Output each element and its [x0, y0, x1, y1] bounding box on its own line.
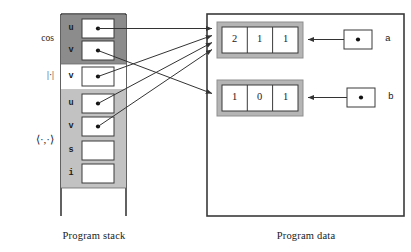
stack-cell-box-inner-i — [82, 164, 114, 183]
pointer-label-b: b — [388, 91, 394, 102]
stack-cell-var-inner-s: s — [62, 145, 80, 155]
array-b-cell-1: 0 — [247, 91, 272, 102]
pointer-box-a — [344, 30, 372, 49]
array-a-cell-0: 2 — [222, 33, 247, 44]
stack-cell-var-inner-i: i — [62, 168, 80, 178]
stack-cell-var-abs-v: v — [62, 71, 80, 81]
stack-cell-var-cos-u: u — [62, 23, 80, 33]
array-b-cell-0: 1 — [222, 91, 247, 102]
pointer-box-b — [347, 88, 375, 107]
stack-cell-var-cos-v: v — [62, 45, 80, 55]
stack-cell-box-inner-s — [82, 141, 114, 160]
stack-cell-var-inner-v: v — [62, 121, 80, 131]
stack-frame-label-cos: cos — [2, 33, 54, 43]
program-stack-data-diagram: cos |·| ⟨·,·⟩ u v v u v s i 2 1 1 1 0 1 … — [0, 0, 411, 252]
stack-cell-var-inner-u: u — [62, 98, 80, 108]
array-a-cell-2: 1 — [273, 33, 298, 44]
array-a-cell-1: 1 — [247, 33, 272, 44]
pointer-label-a: a — [385, 33, 391, 44]
array-b-cell-2: 1 — [273, 91, 298, 102]
stack-frame-label-abs: |·| — [2, 70, 54, 80]
caption-program-data: Program data — [240, 230, 372, 241]
caption-program-stack: Program stack — [28, 230, 160, 241]
stack-frame-label-inner: ⟨·,·⟩ — [0, 133, 54, 146]
